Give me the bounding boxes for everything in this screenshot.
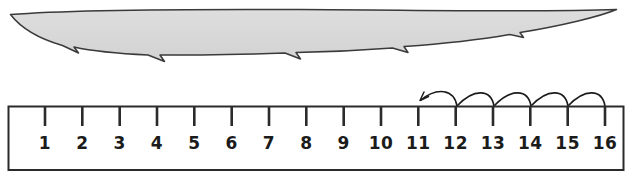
- tick-label-12: 12: [443, 135, 468, 152]
- tick-label-16: 16: [593, 135, 618, 152]
- tick-label-7: 7: [263, 135, 275, 152]
- tick-label-14: 14: [518, 135, 543, 152]
- figure-canvas: 1 2 3 4 5 6 7 8 9 10 11 12 13 14 15 16: [0, 0, 628, 177]
- tick-label-10: 10: [369, 135, 394, 152]
- tick-label-9: 9: [338, 135, 350, 152]
- tick-label-15: 15: [555, 135, 580, 152]
- tick-label-11: 11: [406, 135, 431, 152]
- tick-label-3: 3: [114, 135, 126, 152]
- tick-label-1: 1: [39, 135, 51, 152]
- tick-label-13: 13: [481, 135, 506, 152]
- tick-label-8: 8: [300, 135, 312, 152]
- ruler-labels: 1 2 3 4 5 6 7 8 9 10 11 12 13 14 15 16: [0, 0, 628, 177]
- tick-label-2: 2: [76, 135, 88, 152]
- tick-label-6: 6: [226, 135, 238, 152]
- tick-label-4: 4: [151, 135, 163, 152]
- tick-label-5: 5: [188, 135, 200, 152]
